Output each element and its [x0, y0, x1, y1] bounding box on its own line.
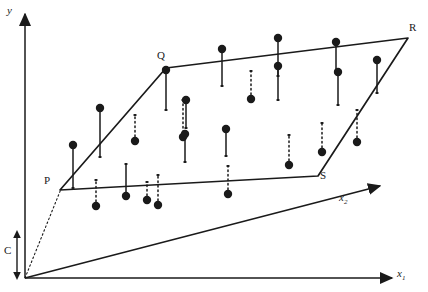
observation-3	[131, 115, 139, 145]
fitted-plane-parallelogram	[60, 38, 408, 190]
observation-5	[162, 66, 170, 110]
observation-1	[96, 104, 104, 157]
observation-dot	[154, 201, 162, 209]
observation-21	[353, 110, 361, 146]
y-axis-label: y	[7, 5, 12, 16]
observation-16	[285, 135, 293, 169]
observation-dot	[92, 202, 100, 210]
observation-dot	[122, 192, 130, 200]
x1-axis-label-subscript: 1	[402, 274, 406, 282]
observation-20	[373, 56, 381, 93]
observation-dot	[131, 137, 139, 145]
observation-18	[334, 68, 342, 105]
observation-12	[222, 125, 230, 156]
observation-6	[154, 175, 162, 209]
observation-9	[181, 130, 189, 162]
observation-11	[247, 71, 255, 103]
observation-dot	[218, 45, 226, 53]
observation-dot	[69, 141, 77, 149]
observation-dot	[181, 130, 189, 138]
observation-dot	[373, 56, 381, 64]
observation-17	[332, 38, 340, 73]
observation-22	[92, 180, 100, 210]
observation-dot	[182, 96, 190, 104]
observation-dot	[224, 190, 232, 198]
intercept-indicator	[13, 189, 61, 280]
observation-19	[318, 123, 326, 156]
intercept-label-c: C	[4, 245, 11, 256]
observation-dot	[162, 66, 170, 74]
observation-dot	[285, 161, 293, 169]
observation-dot	[353, 138, 361, 146]
x2-axis-label: x2	[339, 192, 347, 206]
intercept-guide-line	[25, 189, 61, 278]
vertex-label-p: P	[44, 175, 50, 186]
vertex-label-s: S	[320, 170, 326, 181]
observation-2	[69, 141, 77, 188]
observation-dot	[222, 125, 230, 133]
observation-dot	[143, 196, 151, 204]
vertex-label-q: Q	[157, 50, 165, 61]
intercept-arrow-head-up	[13, 230, 21, 238]
figure-canvas: P Q R S y x1 x2 C	[0, 0, 428, 292]
observation-dot	[332, 38, 340, 46]
observation-13	[224, 166, 232, 198]
observation-dot	[247, 95, 255, 103]
x1-axis-label: x1	[397, 268, 405, 282]
vertex-label-r: R	[409, 22, 416, 33]
regression-plane-diagram	[0, 0, 428, 292]
observation-dot	[96, 104, 104, 112]
observation-dot	[318, 148, 326, 156]
x2-axis-label-subscript: 2	[344, 198, 348, 206]
observation-dot	[274, 34, 282, 42]
observation-4	[122, 164, 130, 200]
intercept-arrow-head-down	[13, 272, 21, 280]
observation-dot	[334, 68, 342, 76]
x2-axis	[25, 186, 380, 278]
observation-10	[218, 45, 226, 86]
